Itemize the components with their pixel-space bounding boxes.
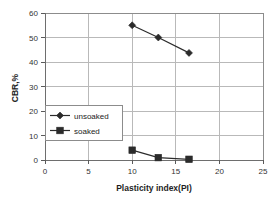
y-axis-tick-labels: 0 10 20 30 40 50 60 [29, 9, 38, 165]
y-tick-label-30: 30 [29, 83, 38, 92]
cbr-vs-plasticity-index-chart: 0 10 20 30 40 50 60 0 5 10 15 20 25 Plas… [0, 0, 276, 204]
x-tick-label-20: 20 [215, 167, 224, 176]
x-tick-label-10: 10 [128, 167, 137, 176]
x-axis-tick-marks [45, 160, 263, 164]
series-soaked-point-2 [155, 154, 162, 161]
y-axis-tick-marks [41, 13, 45, 160]
legend-label-unsoaked: unsoaked [74, 112, 109, 121]
series-soaked-point-3 [186, 156, 193, 163]
x-tick-label-25: 25 [259, 167, 268, 176]
y-axis-title: CBR,% [10, 73, 20, 102]
chart-container: 0 10 20 30 40 50 60 0 5 10 15 20 25 Plas… [0, 0, 276, 204]
chart-legend[interactable]: unsoaked soaked [45, 105, 122, 140]
x-tick-label-15: 15 [171, 167, 180, 176]
y-tick-label-60: 60 [29, 9, 38, 18]
y-tick-label-20: 20 [29, 107, 38, 116]
legend-label-soaked: soaked [74, 127, 100, 136]
x-tick-label-0: 0 [43, 167, 48, 176]
y-tick-label-50: 50 [29, 34, 38, 43]
series-soaked-point-1 [129, 147, 136, 154]
x-axis-title: Plasticity index(PI) [116, 183, 192, 193]
y-tick-label-10: 10 [29, 132, 38, 141]
y-tick-label-40: 40 [29, 58, 38, 67]
square-marker-icon [57, 127, 64, 134]
x-tick-label-5: 5 [86, 167, 91, 176]
x-axis-tick-labels: 0 5 10 15 20 25 [43, 167, 268, 176]
y-tick-label-0: 0 [34, 156, 39, 165]
